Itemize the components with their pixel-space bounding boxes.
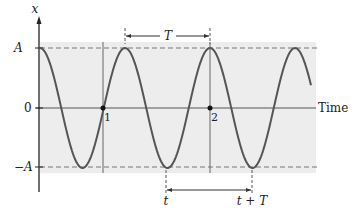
- time-end-label: t + T: [237, 194, 269, 208]
- point-1: [101, 106, 106, 111]
- x-axis-arrow-icon: [37, 16, 42, 24]
- y-axis-label: x: [32, 2, 39, 16]
- point-2-label: 2: [211, 111, 218, 124]
- time-start-label: t: [164, 194, 169, 208]
- amplitude-label: A: [13, 41, 23, 55]
- time-axis-label: Time: [318, 101, 348, 115]
- neg-amplitude-label: −A: [14, 160, 33, 174]
- zero-label: 0: [24, 101, 32, 115]
- point-1-label: 1: [104, 111, 111, 124]
- period-label: T: [164, 29, 173, 43]
- point-2: [208, 106, 213, 111]
- oscillation-diagram: x A 0 −A Time 1 2 T t t + T: [0, 0, 364, 220]
